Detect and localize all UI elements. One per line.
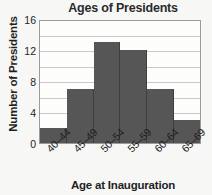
y-tick-label: 8	[14, 77, 36, 87]
y-axis-tick-labels: 1612840	[12, 20, 36, 144]
y-tick-label: 16	[14, 15, 36, 25]
y-tick-label: 12	[14, 46, 36, 56]
histogram-chart: Ages of Presidents Number of Presidents …	[0, 0, 212, 195]
y-tick-label: 0	[14, 139, 36, 149]
y-tick-label: 4	[14, 108, 36, 118]
chart-title: Ages of Presidents	[34, 0, 212, 16]
x-axis-title: Age at Inauguration	[34, 179, 212, 191]
x-axis-tick-labels: 40–4445–4950–5455–5960–6465–69	[39, 146, 201, 178]
